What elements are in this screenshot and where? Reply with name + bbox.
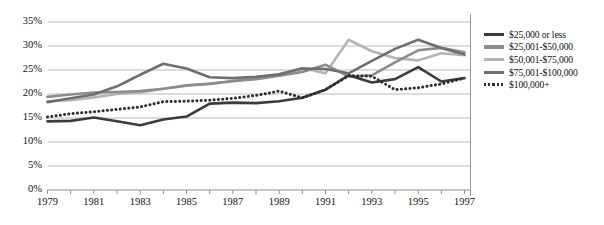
- x-axis-tick-label: 1991: [304, 196, 348, 207]
- legend-swatch-line: [484, 71, 504, 74]
- y-axis-labels: 0%5%10%15%20%25%30%35%: [4, 0, 42, 225]
- y-axis-tick-label: 20%: [8, 88, 42, 98]
- y-axis-tick-label: 5%: [8, 160, 42, 170]
- x-axis-tick-label: 1995: [396, 196, 440, 207]
- legend-swatch-icon: [484, 54, 504, 65]
- legend-item-label: $50,001-$75,000: [509, 54, 573, 65]
- x-axis-tick-label: 1979: [26, 196, 70, 207]
- legend-swatch-icon: [484, 79, 504, 90]
- chart-gridlines: [48, 22, 471, 190]
- x-axis-tick-label: 1989: [257, 196, 301, 207]
- legend-item-label: $25,000 or less: [509, 29, 566, 40]
- legend-item: $25,001-$50,000: [484, 41, 602, 54]
- x-axis-tick-label: 1983: [118, 196, 162, 207]
- x-axis-tick-label: 1987: [211, 196, 255, 207]
- x-axis-tick-label: 1985: [165, 196, 209, 207]
- y-axis-tick-label: 0%: [8, 184, 42, 194]
- legend-swatch-line: [484, 58, 504, 61]
- legend-swatch-line: [484, 33, 504, 36]
- x-axis-tick-label: 1993: [350, 196, 394, 207]
- legend-item-label: $100,000+: [509, 79, 550, 90]
- chart-legend: $25,000 or less$25,001-$50,000$50,001-$7…: [484, 28, 602, 91]
- y-axis-tick-label: 25%: [8, 64, 42, 74]
- legend-swatch-icon: [484, 41, 504, 52]
- legend-item: $25,000 or less: [484, 28, 602, 41]
- legend-item: $50,001-$75,000: [484, 53, 602, 66]
- x-axis-tick-label: 1997: [443, 196, 487, 207]
- legend-item-label: $75,001-$100,000: [509, 67, 578, 78]
- y-axis-tick-label: 35%: [8, 16, 42, 26]
- x-axis-ticks: [48, 190, 465, 194]
- legend-item-label: $25,001-$50,000: [509, 41, 573, 52]
- chart-series-group: [48, 40, 465, 125]
- legend-swatch-line: [484, 83, 504, 86]
- y-axis-tick-label: 15%: [8, 112, 42, 122]
- y-axis-tick-label: 10%: [8, 136, 42, 146]
- legend-swatch-icon: [484, 29, 504, 40]
- legend-item: $75,001-$100,000: [484, 66, 602, 79]
- chart-screenshot: 0%5%10%15%20%25%30%35% 19791981198319851…: [0, 0, 604, 225]
- legend-swatch-icon: [484, 67, 504, 78]
- legend-swatch-line: [484, 45, 504, 48]
- series-line: [48, 76, 465, 117]
- x-axis-tick-label: 1981: [72, 196, 116, 207]
- legend-item: $100,000+: [484, 78, 602, 91]
- y-axis-tick-label: 30%: [8, 40, 42, 50]
